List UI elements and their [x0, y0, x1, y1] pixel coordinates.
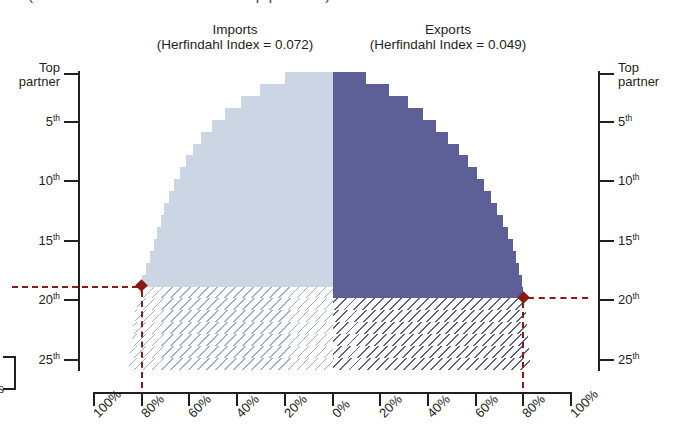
exports-area-series — [333, 72, 572, 370]
y-tick-right — [600, 180, 614, 182]
area-step — [333, 120, 437, 133]
area-step — [129, 358, 333, 370]
left-edge-label-fragment: s — [0, 382, 4, 396]
y-axis-label-right: 20th — [618, 292, 678, 307]
area-step — [333, 215, 504, 228]
area-step — [333, 346, 530, 359]
exports-subtitle: (Herfindahl Index = 0.049) — [330, 37, 566, 52]
area-step — [333, 108, 424, 121]
exports-marker-leader-vertical — [522, 302, 524, 388]
area-step — [132, 334, 333, 347]
y-tick-left — [64, 359, 78, 361]
area-step — [285, 72, 333, 85]
area-step — [139, 287, 332, 300]
area-step — [169, 191, 332, 204]
area-step — [333, 287, 524, 300]
area-step — [201, 132, 332, 145]
area-step — [333, 155, 469, 168]
y-tick-right — [600, 121, 614, 123]
area-step — [333, 310, 527, 323]
area-step — [164, 203, 332, 216]
area-step — [333, 227, 508, 240]
area-step — [130, 346, 332, 359]
y-axis-label-right: 25th — [618, 352, 678, 367]
area-step — [333, 203, 498, 216]
y-axis-label-left: 10th — [0, 173, 60, 188]
area-step — [186, 155, 333, 168]
area-step — [333, 191, 492, 204]
y-axis-label-right: 5th — [618, 114, 678, 129]
area-step — [157, 227, 332, 240]
area-step — [174, 179, 333, 192]
y-tick-right — [600, 359, 614, 361]
imports-title: Imports — [120, 22, 350, 37]
area-step — [137, 298, 333, 311]
cropped-title-fragment: (cumulative share of trade with top part… — [0, 0, 678, 9]
left-edge-bracket-fragment — [3, 356, 16, 390]
area-step — [333, 167, 477, 180]
imports-marker-leader-vertical — [141, 291, 143, 388]
x-axis-label: 100% — [567, 386, 601, 420]
y-tick-left — [64, 121, 78, 123]
area-step — [260, 84, 333, 97]
area-step — [212, 120, 332, 133]
imports-area-series — [94, 72, 333, 370]
y-tick-left — [64, 73, 78, 75]
area-step — [241, 96, 333, 109]
y-axis-right-line — [598, 71, 600, 371]
area-step — [333, 334, 529, 347]
area-step — [142, 275, 333, 288]
exports-title: Exports — [330, 22, 566, 37]
area-step — [154, 239, 333, 252]
imports-panel-heading: Imports (Herfindahl Index = 0.072) — [120, 22, 350, 52]
imports-marker-leader-horizontal — [12, 286, 138, 288]
plot-area — [94, 72, 571, 370]
area-step — [135, 310, 332, 323]
area-step — [333, 72, 366, 85]
area-step — [161, 215, 333, 228]
area-step — [333, 275, 522, 288]
y-tick-right — [600, 299, 614, 301]
y-tick-right — [600, 240, 614, 242]
area-step — [333, 298, 525, 311]
y-tick-left — [64, 240, 78, 242]
y-axis-label-right: 15th — [618, 233, 678, 248]
area-step — [133, 322, 332, 335]
exports-panel-heading: Exports (Herfindahl Index = 0.049) — [330, 22, 566, 52]
area-step — [150, 251, 332, 264]
y-axis-label-left: 5th — [0, 114, 60, 129]
area-step — [333, 322, 528, 335]
y-axis-label-right: Toppartner — [618, 61, 678, 88]
area-step — [146, 263, 332, 276]
y-tick-right — [600, 73, 614, 75]
area-step — [180, 167, 333, 180]
y-tick-left — [64, 180, 78, 182]
area-step — [333, 132, 449, 145]
area-step — [333, 84, 389, 97]
area-step — [333, 144, 459, 157]
area-step — [333, 239, 513, 252]
y-axis-left-line — [78, 71, 80, 371]
area-step — [333, 358, 531, 370]
y-tick-left — [64, 299, 78, 301]
exports-marker-leader-horizontal — [528, 297, 588, 299]
area-step — [333, 263, 520, 276]
y-axis-label-right: 10th — [618, 173, 678, 188]
area-step — [333, 251, 517, 264]
area-step — [225, 108, 332, 121]
y-axis-label-left: Toppartner — [0, 61, 60, 88]
y-axis-label-left: 20th — [0, 292, 60, 307]
area-step — [333, 179, 484, 192]
y-axis-label-left: 15th — [0, 233, 60, 248]
imports-subtitle: (Herfindahl Index = 0.072) — [120, 37, 350, 52]
area-step — [333, 96, 408, 109]
area-step — [193, 144, 333, 157]
chart-figure: (cumulative share of trade with top part… — [0, 0, 678, 447]
